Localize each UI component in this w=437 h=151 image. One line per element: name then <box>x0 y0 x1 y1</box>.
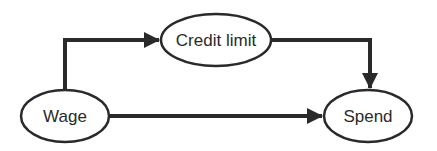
node-spend-label: Spend <box>343 107 392 126</box>
node-credit-limit-label: Credit limit <box>176 31 257 50</box>
node-wage-label: Wage <box>43 107 87 126</box>
node-wage: Wage <box>21 90 109 142</box>
edge-credit-limit-to-spend <box>272 40 370 88</box>
node-spend: Spend <box>324 90 412 142</box>
edge-wage-to-credit-limit <box>65 40 159 89</box>
node-credit-limit: Credit limit <box>161 14 271 66</box>
causal-diagram: Wage Credit limit Spend <box>0 0 437 151</box>
